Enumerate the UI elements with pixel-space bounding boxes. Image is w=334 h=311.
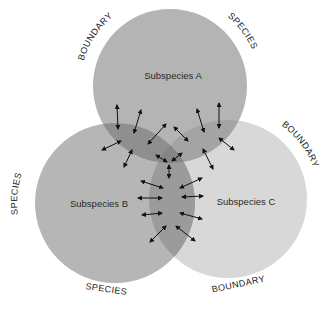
label-subspecies-c: Subspecies C [217,196,276,207]
label-subspecies-a: Subspecies A [144,70,202,81]
outer-label-species-left: SPECIES [9,171,24,215]
venn-diagram: Subspecies A Subspecies B Subspecies C B… [0,0,334,311]
outer-label-species-bottom-text: SPECIES [85,281,128,297]
label-subspecies-b: Subspecies B [70,198,128,209]
